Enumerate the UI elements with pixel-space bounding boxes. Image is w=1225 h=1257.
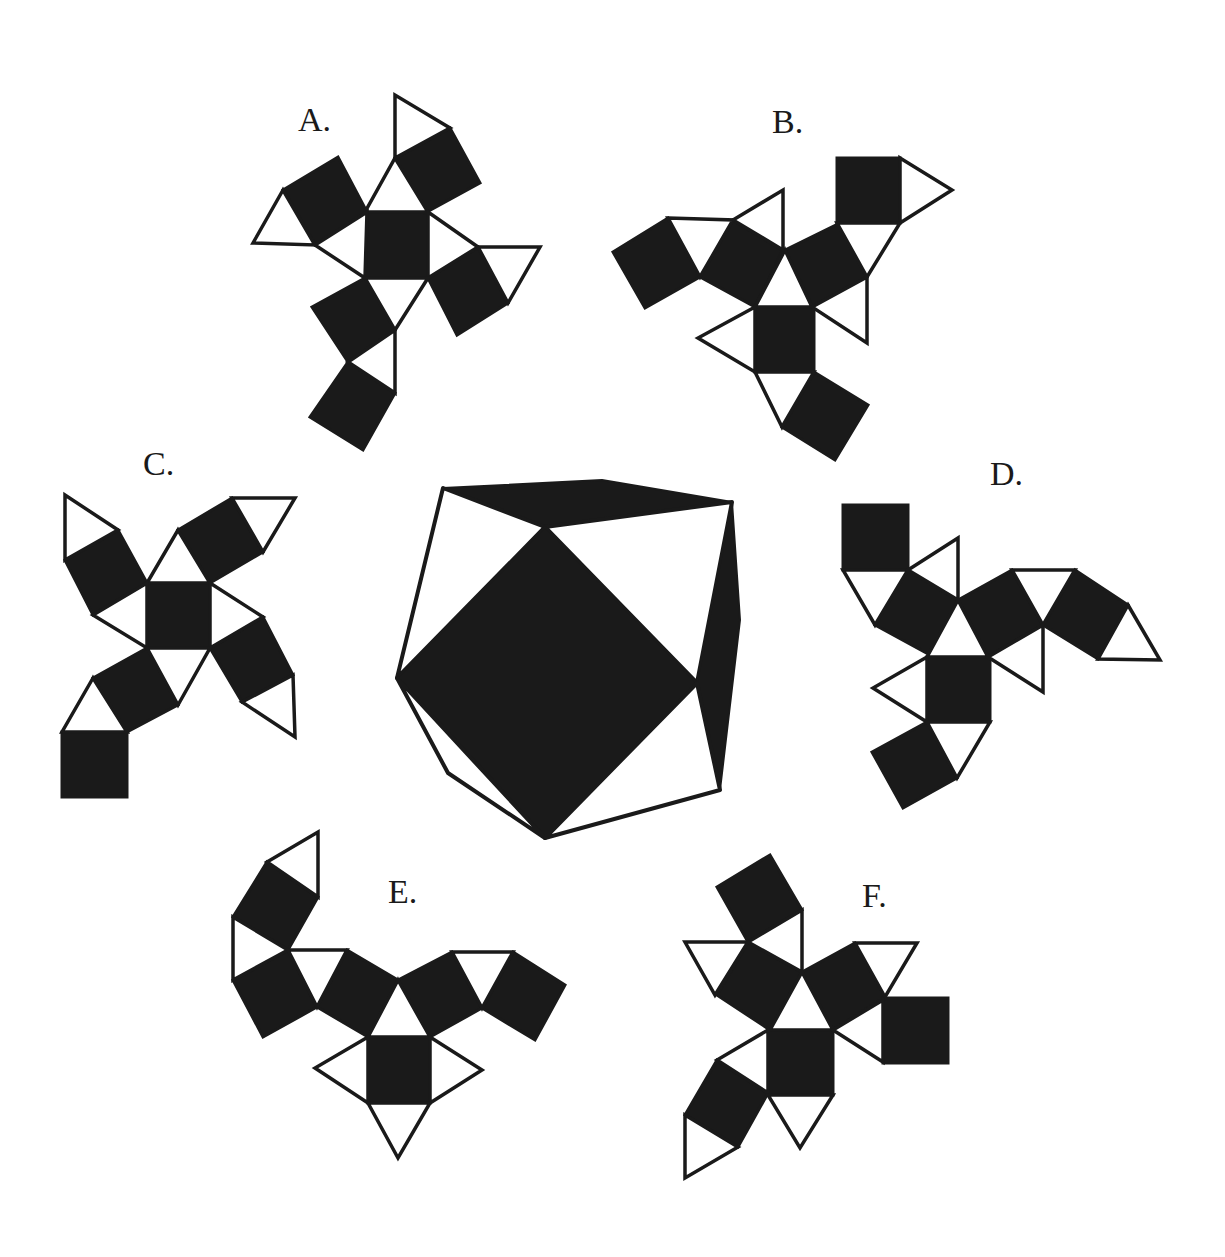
diagram-canvas: A.B.C.D.E.F. — [0, 0, 1225, 1257]
net-square-face — [927, 657, 990, 722]
net-b[interactable]: B. — [613, 103, 952, 460]
net-square-face — [62, 732, 127, 797]
net-d[interactable]: D. — [843, 455, 1160, 808]
net-square-face — [365, 212, 428, 278]
net-e[interactable]: E. — [233, 832, 565, 1158]
net-label-c: C. — [143, 445, 174, 482]
net-triangle-face — [315, 1037, 368, 1103]
net-a[interactable]: A. — [253, 95, 540, 450]
net-triangle-face — [368, 1103, 430, 1158]
net-f[interactable]: F. — [685, 855, 948, 1178]
net-triangle-face — [768, 1095, 833, 1148]
net-square-face — [837, 158, 900, 223]
central-solid — [397, 480, 740, 838]
net-triangle-face — [873, 657, 927, 722]
net-c[interactable]: C. — [62, 445, 295, 797]
net-square-face — [883, 998, 948, 1063]
net-triangle-face — [900, 158, 952, 223]
net-label-b: B. — [772, 103, 803, 140]
net-triangle-face — [430, 1037, 482, 1103]
net-label-a: A. — [298, 101, 331, 138]
net-square-face — [843, 505, 908, 570]
net-triangle-face — [698, 307, 755, 372]
net-square-face — [755, 307, 814, 372]
net-square-face — [147, 583, 210, 648]
net-square-face — [768, 1028, 833, 1095]
net-square-face — [368, 1037, 430, 1103]
net-label-d: D. — [990, 455, 1023, 492]
net-label-e: E. — [388, 873, 417, 910]
net-label-f: F. — [862, 877, 887, 914]
